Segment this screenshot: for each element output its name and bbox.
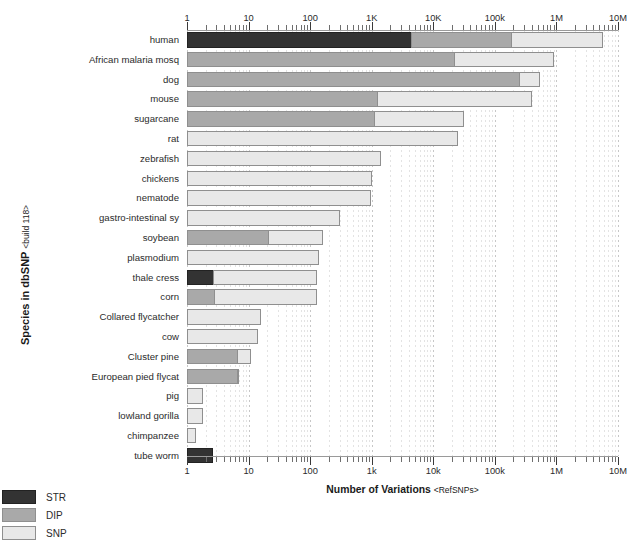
x-tick-label-top: 100 [302,13,318,23]
axis-tick [230,457,231,462]
axis-tick [452,457,453,462]
axis-tick [329,457,330,462]
stacked-bar[interactable] [187,190,371,206]
axis-tick [409,457,410,462]
stacked-bar[interactable] [187,111,464,127]
stacked-bar[interactable] [187,349,251,365]
chart-root: Species in dbSNP <build 118> humanAfrica… [0,0,634,545]
axis-tick [430,457,431,462]
axis-tick [575,457,576,462]
x-axis-top [187,30,618,31]
bar-segment-snp [454,52,553,68]
axis-tick [485,457,486,462]
y-axis-title-text: Species in dbSNP [19,252,31,345]
axis-tick [267,457,268,462]
legend-item[interactable]: STR [2,488,67,506]
table-row [187,287,618,307]
stacked-bar[interactable] [187,151,381,167]
category-label: pig [36,386,184,406]
bar-segment-snp [187,388,203,404]
table-row [187,228,618,248]
category-label: Cluster pine [36,347,184,367]
legend-label: SNP [46,528,67,539]
stacked-bar[interactable] [187,250,319,266]
axis-tick [608,457,609,462]
x-axis-title: Number of Variations <RefSNPs> [187,484,618,495]
bar-segment-snp [187,309,261,325]
x-tick-label-bottom: 10k [426,466,441,476]
axis-tick [476,457,477,462]
table-row [187,70,618,90]
stacked-bar[interactable] [187,32,603,48]
stacked-bar[interactable] [187,369,239,385]
table-row [187,307,618,327]
axis-tick [347,457,348,462]
legend-swatch-dip [2,508,36,522]
category-label: cow [36,327,184,347]
x-tick-label-top: 1M [550,13,563,23]
bar-segment-snp [237,369,239,385]
axis-tick [524,457,525,462]
stacked-bar[interactable] [187,329,258,345]
table-row [187,426,618,446]
stacked-bar[interactable] [187,72,540,88]
axis-tick [340,457,341,462]
bar-segment-snp [187,210,340,226]
stacked-bar[interactable] [187,210,340,226]
stacked-bar[interactable] [187,388,203,404]
x-tick-label-bottom: 1M [550,466,563,476]
bar-segment-snp [187,151,381,167]
stacked-bar[interactable] [187,270,317,286]
bar-segment-str [187,270,213,286]
x-tick-label-bottom: 100k [485,466,505,476]
category-label: thale cress [36,268,184,288]
stacked-bar[interactable] [187,408,203,424]
category-label: Collared flycatcher [36,307,184,327]
axis-tick [618,22,619,30]
bar-segment-snp [187,408,203,424]
axis-tick [615,457,616,462]
axis-tick [470,457,471,462]
axis-tick [362,457,363,462]
legend-item[interactable]: SNP [2,524,67,542]
axis-tick [550,457,551,462]
table-row [187,109,618,129]
legend: STRDIPSNP [2,488,67,542]
axis-tick [492,457,493,462]
x-tick-label-top: 1K [366,13,377,23]
axis-tick [618,457,619,465]
category-label: chimpanzee [36,426,184,446]
axis-tick [401,457,402,462]
bar-segment-snp [377,91,532,107]
category-label: rat [36,129,184,149]
table-row [187,327,618,347]
table-row [187,149,618,169]
category-label: human [36,30,184,50]
stacked-bar[interactable] [187,309,261,325]
axis-tick [292,457,293,462]
axis-tick [593,457,594,462]
axis-tick [307,457,308,462]
stacked-bar[interactable] [187,171,372,187]
stacked-bar[interactable] [187,289,317,305]
category-label: nematode [36,188,184,208]
stacked-bar[interactable] [187,52,554,68]
x-tick-label-bottom: 100 [302,466,318,476]
bar-segment-dip [187,230,268,246]
stacked-bar[interactable] [187,230,323,246]
stacked-bar[interactable] [187,428,196,444]
stacked-bar[interactable] [187,131,458,147]
x-tick-label-top: 10K [425,13,442,23]
plot-area [187,30,618,456]
x-tick-label-top: 1 [184,13,189,23]
stacked-bar[interactable] [187,91,532,107]
category-label: dog [36,70,184,90]
axis-tick [556,457,557,465]
x-axis-bottom-tick-labels: 1101001k10k100k1M10M [187,466,618,480]
table-row [187,50,618,70]
category-label: zebrafish [36,149,184,169]
legend-item[interactable]: DIP [2,506,67,524]
legend-label: STR [46,492,66,503]
legend-label: DIP [46,510,63,521]
x-axis-title-sub: <RefSNPs> [434,485,479,495]
